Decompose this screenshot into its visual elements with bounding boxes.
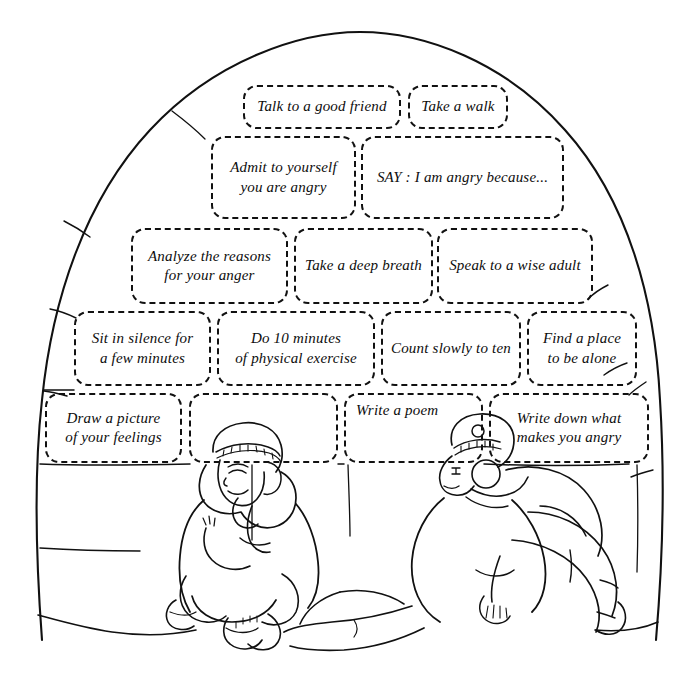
snow-vertical-joint-c xyxy=(637,465,638,572)
child-left-eye xyxy=(229,470,246,473)
strategy-block-do-10-minutes-exercise[interactable]: Do 10 minutes of physical exercise xyxy=(217,311,375,386)
snow-ground-right xyxy=(595,622,658,631)
child-left-parka-right xyxy=(296,504,319,608)
strategy-block-count-slowly-to-ten[interactable]: Count slowly to ten xyxy=(381,311,521,386)
strategy-block-write-a-poem[interactable]: Write a poem xyxy=(344,393,483,463)
snow-course-row6-left xyxy=(40,548,140,551)
strategy-block-take-a-deep-breath[interactable]: Take a deep breath xyxy=(294,228,433,304)
strategy-block-find-a-place-to-be-alone[interactable]: Find a place to be alone xyxy=(527,311,637,386)
strategy-block-admit-to-yourself[interactable]: Admit to yourself you are angry xyxy=(211,136,356,219)
child-right-arm xyxy=(491,556,500,602)
child-right-parka-front xyxy=(512,500,546,612)
child-left-brow xyxy=(228,464,248,467)
strategy-block-blank-behind-child[interactable] xyxy=(189,393,338,463)
strategy-block-sit-in-silence[interactable]: Sit in silence for a few minutes xyxy=(74,311,211,386)
strategy-label: Sit in silence for a few minutes xyxy=(88,329,198,367)
strategy-block-talk-to-a-good-friend[interactable]: Talk to a good friend xyxy=(243,85,401,129)
igloo-seam-left-2 xyxy=(50,309,76,318)
snow-vertical-joint-b xyxy=(348,465,350,536)
snow-course-row5-left xyxy=(40,464,190,465)
child-right-foot-crease xyxy=(354,620,357,637)
child-right-fingers xyxy=(486,605,507,618)
child-left-face xyxy=(218,460,264,506)
child-right-boot-right xyxy=(596,602,625,634)
strategy-label: Take a walk xyxy=(417,97,498,116)
strategy-label: Write a poem xyxy=(346,401,442,420)
child-right-hand xyxy=(480,596,510,623)
child-left-mouth xyxy=(228,490,248,494)
child-right-back-mound-lower xyxy=(540,506,586,536)
child-left-cuff xyxy=(240,538,270,545)
strategy-label: Do 10 minutes of physical exercise xyxy=(231,329,361,367)
strategy-label: Count slowly to ten xyxy=(387,339,515,358)
child-right-eye xyxy=(452,468,460,474)
child-left-boot-trim-a xyxy=(170,612,196,615)
strategy-label: Take a deep breath xyxy=(301,256,426,275)
child-left-knee-right xyxy=(262,574,298,625)
strategy-block-take-a-walk[interactable]: Take a walk xyxy=(408,85,508,129)
child-right-parka-back xyxy=(412,498,444,622)
child-left-arm-left xyxy=(204,528,250,569)
child-left-nose xyxy=(224,478,227,486)
child-right-knee-bend xyxy=(340,591,404,605)
strategy-label: Analyze the reasons for your anger xyxy=(144,247,275,285)
strategy-block-write-down-what-makes-you-angry[interactable]: Write down what makes you angry xyxy=(489,393,649,463)
child-right-knee-seam xyxy=(570,550,572,582)
child-right-shin xyxy=(300,592,340,624)
child-right-mouth xyxy=(444,486,459,488)
child-left-boot-trim-b xyxy=(226,628,258,633)
strategy-label: Draw a picture of your feelings xyxy=(61,409,166,447)
strategy-block-draw-a-picture[interactable]: Draw a picture of your feelings xyxy=(45,393,182,463)
strategy-label: Write down what makes you angry xyxy=(513,409,626,447)
strategy-block-say-i-am-angry-because[interactable]: SAY : I am angry because... xyxy=(361,136,564,219)
strategy-label: SAY : I am angry because... xyxy=(373,168,552,187)
strategy-label: Talk to a good friend xyxy=(253,97,391,116)
snow-ground-left xyxy=(38,615,196,635)
child-right-thigh-lower xyxy=(512,540,599,632)
child-left-fingers xyxy=(203,516,215,526)
strategy-label: Admit to yourself you are angry xyxy=(226,158,341,196)
strategy-label: Find a place to be alone xyxy=(539,329,625,367)
snow-course-row5-right xyxy=(484,464,629,466)
strategy-block-speak-to-a-wise-adult[interactable]: Speak to a wise adult xyxy=(437,228,593,304)
strategy-block-analyze-the-reasons[interactable]: Analyze the reasons for your anger xyxy=(131,228,288,304)
child-right-back-mound xyxy=(506,467,602,556)
igloo-seam-upper-left xyxy=(172,111,205,139)
child-left-leg-near xyxy=(192,596,276,622)
illustration-canvas: Talk to a good friend Take a walk Admit … xyxy=(0,0,691,686)
igloo-seam-right-4 xyxy=(631,470,653,477)
strategy-label: Speak to a wise adult xyxy=(445,256,585,275)
child-right-collar-inner xyxy=(466,497,508,508)
